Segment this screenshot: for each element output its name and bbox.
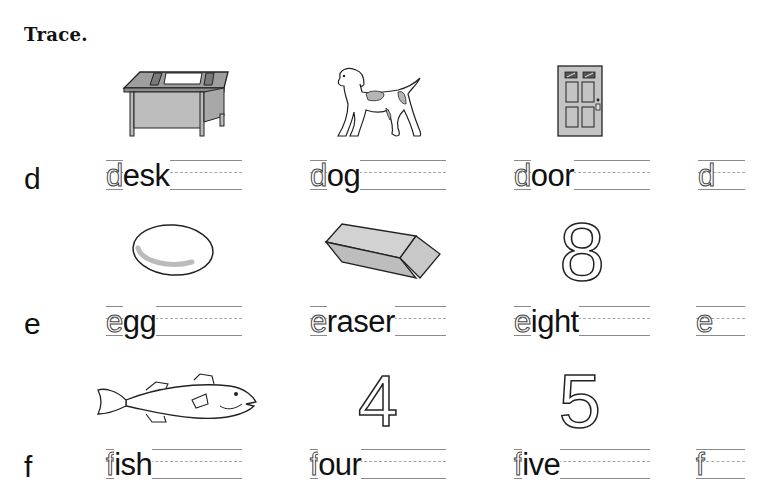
word-eight: eight [514, 307, 579, 337]
numeral-eight-icon: 8 [560, 218, 604, 284]
trace-letter: f [514, 447, 522, 482]
word-f: f [696, 450, 704, 480]
trace-letter: f [106, 447, 114, 482]
svg-text:4: 4 [358, 372, 398, 428]
tracing-lines-fish: fish [106, 449, 242, 479]
word-four: four [310, 450, 361, 480]
trace-letter: e [696, 304, 713, 339]
numeral-four-icon: 4 [356, 372, 400, 428]
fish-icon [96, 370, 260, 430]
worksheet-title: Trace. [24, 24, 88, 45]
trace-letter: f [696, 447, 704, 482]
word-fish: fish [106, 450, 152, 480]
dog-icon [330, 64, 430, 144]
egg-icon [130, 222, 216, 278]
word-d: d [698, 161, 715, 191]
tracing-lines-five: five [514, 449, 650, 479]
word-door: door [514, 161, 574, 191]
numeral-five-icon: 5 [558, 370, 602, 430]
word-eraser: eraser [310, 307, 395, 337]
tracing-lines-d: d [698, 160, 745, 190]
trace-letter: d [698, 158, 715, 193]
tracing-lines-f: f [696, 449, 745, 479]
word-egg: egg [106, 307, 156, 337]
row-letter-d: d [24, 164, 41, 194]
trace-letter: e [514, 304, 531, 339]
eraser-icon [316, 220, 446, 282]
trace-letter: d [310, 158, 327, 193]
tracing-lines-four: four [310, 449, 446, 479]
trace-letter: d [106, 158, 123, 193]
svg-text:8: 8 [560, 218, 604, 284]
tracing-lines-eraser: eraser [310, 306, 446, 336]
word-dog: dog [310, 161, 360, 191]
trace-letter: e [310, 304, 327, 339]
desk-icon [120, 66, 232, 140]
tracing-lines-desk: desk [106, 160, 242, 190]
row-letter-e: e [24, 309, 41, 339]
tracing-lines-dog: dog [310, 160, 446, 190]
trace-letter: e [106, 304, 123, 339]
trace-letter: f [310, 447, 318, 482]
tracing-lines-eight: eight [514, 306, 650, 336]
tracing-lines-e: e [696, 306, 745, 336]
word-desk: desk [106, 161, 170, 191]
word-five: five [514, 450, 560, 480]
svg-text:5: 5 [559, 370, 601, 430]
tracing-lines-door: door [514, 160, 650, 190]
word-e: e [696, 307, 713, 337]
tracing-lines-egg: egg [106, 306, 242, 336]
door-icon [556, 64, 604, 138]
trace-letter: d [514, 158, 531, 193]
row-letter-f: f [24, 452, 32, 482]
